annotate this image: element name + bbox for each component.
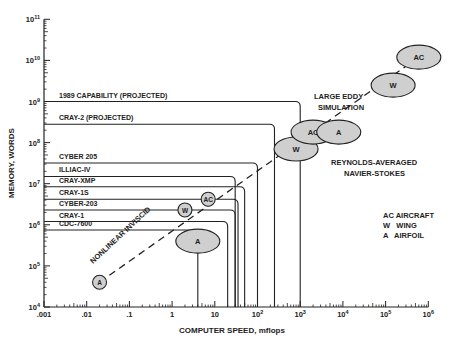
les-label-line1: LARGE EDDY <box>314 92 363 101</box>
svg-text:W: W <box>293 145 301 154</box>
legend-aircraft: AC AIRCRAFT <box>383 211 434 220</box>
computer-capability-line <box>44 163 258 307</box>
y-tick-label: 1011 <box>26 14 40 24</box>
svg-text:AC: AC <box>203 196 213 203</box>
computer-label: CRAY-1 <box>59 212 84 219</box>
computer-label: CRAY-2 (PROJECTED) <box>59 114 133 122</box>
svg-text:A: A <box>336 128 342 137</box>
requirement-marker-ac: AC <box>201 192 215 206</box>
les-label-line2: SIMULATION <box>318 103 364 112</box>
x-axis-label: COMPUTER SPEED, mflops <box>179 326 285 335</box>
computer-label: CYBER-203 <box>59 200 98 207</box>
requirement-marker-a: A <box>93 275 107 289</box>
x-tick-label: 102 <box>252 309 263 319</box>
svg-text:A: A <box>195 237 201 246</box>
x-tick-label: 10 <box>211 310 219 319</box>
x-tick-label: 1 <box>170 310 174 319</box>
requirement-marker-a: A <box>176 229 220 253</box>
computer-label: ILLIAC-IV <box>59 166 91 173</box>
x-tick-label: .001 <box>37 310 52 319</box>
requirement-marker-w: W <box>178 203 192 217</box>
y-tick-label: 1010 <box>26 55 40 65</box>
y-tick-label: 108 <box>29 138 40 148</box>
rans-label-line2: NAVIER-STOKES <box>344 169 405 178</box>
inviscid-label: NONLINEAR INVISCID <box>88 204 152 265</box>
y-tick-label: 106 <box>29 220 40 230</box>
svg-text:A: A <box>97 279 102 286</box>
computer-label: CDC-7600 <box>59 220 92 227</box>
computer-label: 1989 CAPABILITY (PROJECTED) <box>59 92 167 100</box>
x-tick-label: .1 <box>126 310 132 319</box>
x-tick-label: 106 <box>423 309 434 319</box>
x-tick-label: 105 <box>380 309 391 319</box>
computer-label: CRAY-XMP <box>59 177 96 184</box>
y-tick-label: 109 <box>29 97 40 107</box>
computer-capability-line <box>44 230 198 307</box>
computer-lines: 1989 CAPABILITY (PROJECTED)CRAY-2 (PROJE… <box>44 92 300 308</box>
requirement-marker-w: W <box>371 73 415 97</box>
y-tick-label: 107 <box>29 179 40 189</box>
legend-wing: W WING <box>383 221 417 230</box>
y-tick-label: 105 <box>29 261 40 271</box>
requirement-ellipses: AWACAWACAWAC <box>93 45 441 289</box>
memory-vs-speed-chart: .001.01.11101021031041051061041051061071… <box>0 0 476 343</box>
x-tick-label: 103 <box>294 309 305 319</box>
requirement-marker-ac: AC <box>397 45 441 69</box>
legend-airfoil: A AIRFOIL <box>383 231 425 240</box>
requirement-marker-a: A <box>317 120 361 144</box>
rans-label-line1: REYNOLDS-AVERAGED <box>331 158 418 167</box>
x-tick-label: .01 <box>81 310 91 319</box>
y-axis-label: MEMORY, WORDS <box>7 127 16 198</box>
svg-text:W: W <box>390 81 398 90</box>
x-tick-label: 104 <box>337 309 349 319</box>
computer-label: CRAY-1S <box>59 189 89 196</box>
svg-text:W: W <box>182 207 189 214</box>
computer-label: CYBER 205 <box>59 153 97 160</box>
svg-text:AC: AC <box>413 53 424 62</box>
